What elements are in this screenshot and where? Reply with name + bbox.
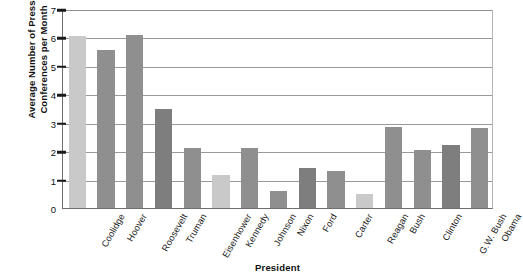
x-axis-tick-label: Ford [321, 212, 339, 234]
bar [327, 171, 344, 208]
bar [155, 109, 172, 209]
y-axis-title-line-1: Average Number of Press [26, 0, 38, 160]
y-axis-tick-label: 1 [40, 175, 56, 186]
y-axis-tick-label: 7 [40, 5, 56, 16]
y-axis-tick-mark [57, 94, 66, 97]
y-axis-tick-mark [57, 9, 66, 12]
bar [385, 127, 402, 208]
plot-area [62, 10, 493, 209]
y-axis-tick-labels: 01234567 [40, 0, 56, 219]
bars-layer [63, 10, 492, 208]
y-axis-tick-label: 6 [40, 33, 56, 44]
bar [299, 168, 316, 208]
y-axis-tick-label: 2 [40, 147, 56, 158]
y-axis-tick-label: 5 [40, 61, 56, 72]
y-axis-tick-mark [57, 37, 66, 40]
y-axis-tick-mark [57, 66, 66, 69]
bar [69, 36, 86, 208]
y-axis-tick-mark [57, 179, 66, 182]
x-axis-tick-label: Carter [353, 212, 375, 240]
x-axis-title: President [62, 262, 493, 273]
y-axis-tick-label: 4 [40, 90, 56, 101]
bar [471, 128, 488, 208]
y-axis-tick-label: 3 [40, 118, 56, 129]
bar [442, 145, 459, 208]
bar [356, 194, 373, 208]
y-axis-tick-label: 0 [40, 204, 56, 215]
x-axis-tick-label: Coolidge [100, 212, 127, 249]
bar [241, 148, 258, 208]
x-axis-tick-labels: CoolidgeHooverRooseveltTrumanEisenhowerK… [62, 209, 493, 267]
bar [414, 150, 431, 208]
bar [97, 50, 114, 208]
x-axis-tick-label: Bush [408, 212, 427, 235]
x-axis-tick-label: Reagan [385, 212, 410, 245]
x-axis-tick-label: Roosevelt [160, 212, 190, 253]
bar [212, 175, 229, 208]
y-axis-tick-mark [57, 151, 66, 154]
x-axis-tick-label: Clinton [441, 212, 464, 242]
x-axis-tick-label: Johnson [271, 212, 297, 248]
bar [270, 191, 287, 208]
x-axis-tick-label: Hoover [125, 212, 149, 243]
bar [126, 35, 143, 208]
y-axis-tick-mark [57, 122, 66, 125]
bar [184, 148, 201, 208]
